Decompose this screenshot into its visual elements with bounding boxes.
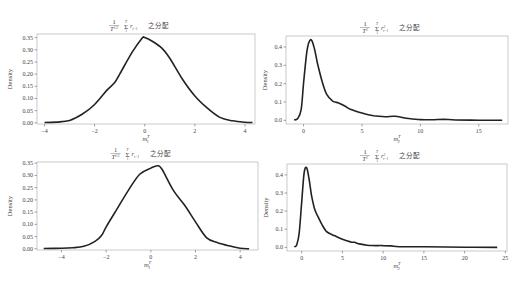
y-tick-label: 0.30: [23, 47, 34, 53]
x-axis-label: mT2: [393, 261, 401, 271]
x-tick-label: −4: [58, 254, 64, 260]
svg-text:1: 1: [125, 29, 127, 33]
y-tick-label: 0.15: [23, 83, 34, 89]
y-tick-label: 0.20: [23, 197, 34, 203]
chart-title: 1T2TΣ1r2t−1之分配: [360, 20, 420, 35]
x-tick-label: −2: [103, 254, 109, 260]
chart-panel-bottom-right: 0.00.10.20.30.40510152025DensitymT21T2TΣ…: [262, 148, 508, 271]
y-tick-label: 0.4: [276, 172, 284, 178]
y-axis-label: Density: [6, 68, 13, 89]
x-tick-label: 4: [239, 254, 242, 260]
x-tick-label: 2: [193, 128, 196, 134]
svg-text:1: 1: [376, 31, 378, 35]
y-tick-label: 0.10: [23, 95, 34, 101]
y-tick-label: 0.30: [23, 172, 34, 178]
x-tick-label: −4: [41, 128, 47, 134]
y-tick-label: 0.10: [23, 221, 34, 227]
x-tick-label: 4: [243, 128, 246, 134]
x-tick-label: 10: [417, 128, 423, 134]
y-tick-label: 0.0: [276, 244, 284, 250]
density-curve: [294, 40, 502, 121]
x-axis-label: mT2: [393, 134, 401, 144]
svg-text:之分配: 之分配: [150, 149, 171, 158]
x-tick-label: 25: [502, 255, 508, 261]
x-axis-label: mT1: [142, 134, 150, 144]
chart-panel-top-left: 0.000.050.100.150.200.250.300.35−4−2024D…: [6, 18, 255, 144]
x-tick-label: 15: [421, 255, 427, 261]
svg-text:r2t−1: r2t−1: [381, 24, 389, 33]
y-tick-label: 0.2: [275, 81, 283, 87]
y-tick-label: 0.35: [23, 35, 34, 41]
svg-text:rt−1: rt−1: [132, 150, 140, 159]
svg-text:1: 1: [112, 18, 115, 25]
svg-text:1: 1: [376, 159, 378, 163]
chart-panel-bottom-left: 0.000.050.100.150.200.250.300.35−4−2024D…: [6, 146, 258, 270]
svg-text:1: 1: [114, 146, 117, 153]
y-tick-label: 0.1: [276, 226, 284, 232]
y-tick-label: 0.3: [275, 62, 283, 68]
x-tick-label: −2: [91, 128, 97, 134]
x-tick-label: 15: [476, 128, 482, 134]
plot-frame: [287, 164, 507, 251]
svg-text:T1/2: T1/2: [110, 25, 118, 32]
x-tick-label: 0: [143, 128, 146, 134]
x-tick-label: 10: [380, 255, 386, 261]
plot-frame: [286, 36, 508, 124]
y-tick-label: 0.3: [276, 190, 284, 196]
y-tick-label: 0.2: [276, 208, 284, 214]
svg-text:T2: T2: [362, 27, 368, 34]
chart-title: 1T1/2TΣ1rt−1之分配: [111, 146, 171, 161]
svg-text:之分配: 之分配: [399, 151, 420, 160]
svg-text:1: 1: [363, 148, 366, 155]
x-tick-label: 20: [462, 255, 468, 261]
svg-text:之分配: 之分配: [148, 21, 169, 30]
x-axis-label: mT1: [144, 260, 152, 270]
y-tick-label: 0.25: [23, 185, 34, 191]
x-tick-label: 0: [300, 255, 303, 261]
svg-text:之分配: 之分配: [399, 23, 420, 32]
plot-frame: [37, 34, 255, 124]
y-tick-label: 0.0: [275, 117, 283, 123]
y-tick-label: 0.00: [23, 120, 34, 126]
chart-title: 1T2TΣ1r2t−1之分配: [360, 148, 420, 163]
density-curve: [45, 37, 253, 123]
svg-text:1: 1: [127, 157, 129, 161]
y-tick-label: 0.00: [23, 246, 34, 252]
y-axis-label: Density: [261, 69, 268, 90]
y-tick-label: 0.05: [23, 234, 34, 240]
y-tick-label: 0.25: [23, 59, 34, 65]
x-tick-label: 5: [341, 255, 344, 261]
y-axis-label: Density: [6, 195, 13, 216]
svg-text:rt−1: rt−1: [130, 22, 138, 31]
y-tick-label: 0.20: [23, 71, 34, 77]
svg-text:1: 1: [363, 20, 366, 27]
density-curve: [294, 167, 497, 247]
y-tick-label: 0.05: [23, 108, 34, 114]
chart-title: 1T1/2TΣ1rt−1之分配: [109, 18, 169, 33]
y-tick-label: 0.1: [275, 99, 283, 105]
chart-panel-top-right: 0.00.10.20.30.4051015DensitymT21T2TΣ1r2t…: [261, 20, 508, 144]
density-curve: [44, 166, 249, 249]
svg-text:r2t−1: r2t−1: [381, 152, 389, 161]
y-tick-label: 0.15: [23, 209, 34, 215]
y-tick-label: 0.35: [23, 160, 34, 166]
y-axis-label: Density: [262, 197, 269, 218]
plot-frame: [37, 162, 258, 250]
x-tick-label: 0: [302, 128, 305, 134]
svg-text:T2: T2: [362, 155, 368, 162]
svg-text:T1/2: T1/2: [111, 153, 119, 160]
y-tick-label: 0.4: [275, 44, 283, 50]
figure: 0.000.050.100.150.200.250.300.35−4−2024D…: [0, 0, 523, 284]
x-tick-label: 5: [360, 128, 363, 134]
x-tick-label: 2: [194, 254, 197, 260]
